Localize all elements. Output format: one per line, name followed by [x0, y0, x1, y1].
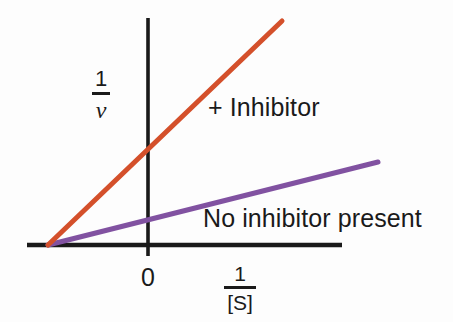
y-axis-label: 1 v [84, 68, 118, 123]
x-axis-label-denominator: [S] [224, 291, 256, 313]
annotation-no-inhibitor: No inhibitor present [203, 206, 422, 231]
y-axis-label-denominator: v [92, 97, 110, 122]
annotation-inhibitor: + Inhibitor [208, 95, 320, 120]
fraction-bar [224, 286, 256, 289]
x-axis-label-numerator: 1 [224, 263, 256, 285]
x-axis-label-fraction: 1 [S] [224, 263, 256, 313]
origin-tick-label: 0 [131, 265, 165, 290]
lineweaver-burk-figure: 1 v 1 [S] 0 + Inhibitor No inhibitor pre… [0, 0, 453, 322]
y-axis-label-fraction: 1 v [92, 68, 110, 123]
y-axis-label-numerator: 1 [92, 68, 110, 91]
x-axis-label: 1 [S] [214, 263, 266, 313]
fraction-bar [92, 92, 110, 95]
